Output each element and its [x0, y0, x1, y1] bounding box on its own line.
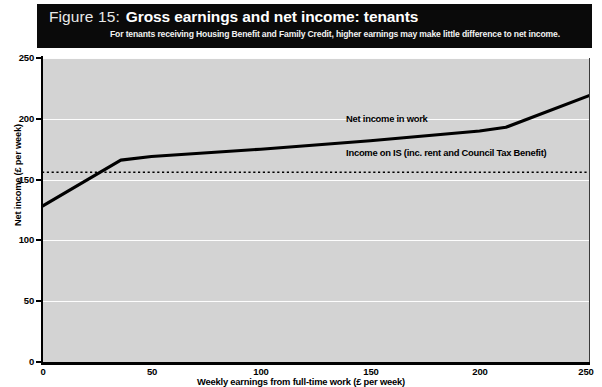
- x-axis-title: Weekly earnings from full-time work (£ p…: [0, 376, 602, 387]
- y-axis-title: Net income (£ per week): [13, 65, 23, 285]
- y-tick-label-0: 0: [0, 356, 34, 367]
- figure-title-line: Figure 15:Gross earnings and net income:…: [49, 8, 418, 26]
- y-tick-mark-50: [36, 300, 42, 302]
- figure-header-banner: Figure 15:Gross earnings and net income:…: [37, 4, 592, 48]
- figure-subtitle: For tenants receiving Housing Benefit an…: [110, 29, 560, 39]
- x-axis-line: [41, 362, 590, 365]
- annotation-net-income-in-work: Net income in work: [346, 113, 427, 124]
- y-axis-line: [41, 56, 43, 364]
- plot-area: Net income in work Income on IS (inc. re…: [42, 58, 590, 362]
- y-tick-mark-250: [36, 57, 42, 59]
- series-layer: [42, 58, 589, 362]
- y-tick-mark-200: [36, 118, 42, 120]
- y-tick-mark-100: [36, 239, 42, 241]
- y-tick-label-50: 50: [0, 295, 34, 306]
- figure-number: Figure 15:: [49, 8, 120, 25]
- figure-title: Gross earnings and net income: tenants: [126, 8, 419, 25]
- y-tick-mark-150: [36, 179, 42, 181]
- y-tick-label-250: 250: [0, 52, 34, 63]
- annotation-income-on-is: Income on IS (inc. rent and Council Tax …: [346, 147, 546, 158]
- figure-root: Figure 15:Gross earnings and net income:…: [0, 0, 602, 387]
- y-tick-mark-0: [36, 361, 42, 363]
